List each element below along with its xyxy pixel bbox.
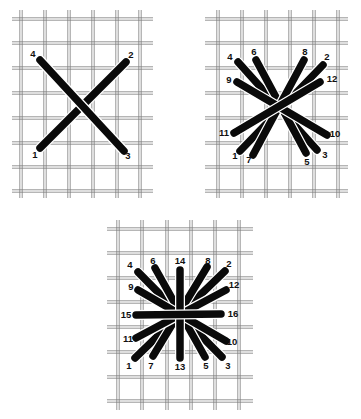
- step-number-label: 16: [228, 308, 239, 319]
- step-number-label: 3: [322, 149, 327, 160]
- step-number-label: 2: [128, 49, 133, 60]
- step-number-label: 11: [123, 333, 134, 344]
- step-number-label: 7: [148, 360, 153, 371]
- step-number-label: 2: [226, 258, 231, 269]
- step-number-label: 15: [121, 309, 132, 320]
- stitch-diagram: 4213 468291211101753 4614829121516111017…: [0, 0, 361, 419]
- step-number-label: 13: [175, 361, 186, 372]
- step-number-label: 12: [229, 279, 240, 290]
- step-number-label: 6: [251, 46, 256, 57]
- step-number-label: 4: [30, 48, 36, 59]
- step-number-label: 2: [324, 51, 329, 62]
- step-number-label: 3: [225, 360, 230, 371]
- stitch-15-16: [136, 314, 221, 315]
- step-number-label: 11: [219, 127, 230, 138]
- step-number-label: 8: [302, 46, 307, 57]
- step-number-label: 12: [327, 73, 338, 84]
- step-number-label: 4: [227, 51, 233, 62]
- step-number-label: 10: [330, 128, 341, 139]
- panel-cross-stitch: 4213: [12, 10, 153, 198]
- step-number-label: 1: [32, 149, 38, 160]
- step-number-label: 7: [246, 154, 251, 165]
- panel-double-cross-stitch: 468291211101753: [205, 10, 348, 198]
- step-number-label: 9: [128, 281, 133, 292]
- step-number-label: 6: [150, 255, 155, 266]
- step-number-label: 5: [203, 360, 209, 371]
- step-number-label: 1: [232, 150, 238, 161]
- step-number-label: 10: [227, 336, 238, 347]
- stitches: [135, 267, 226, 358]
- step-number-label: 8: [205, 255, 210, 266]
- step-number-label: 1: [126, 360, 132, 371]
- step-number-label: 3: [125, 150, 130, 161]
- step-number-label: 9: [226, 74, 231, 85]
- step-number-label: 14: [175, 255, 186, 266]
- panel-star-stitch: 46148291215161110171353: [107, 220, 253, 410]
- step-number-label: 5: [304, 156, 310, 167]
- step-number-label: 4: [127, 259, 133, 270]
- stitches: [40, 60, 126, 151]
